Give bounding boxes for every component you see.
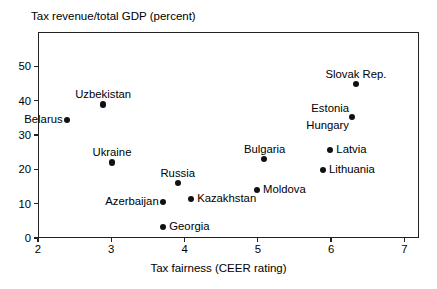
x-tick-label: 5: [247, 243, 269, 255]
y-tick-label: 30: [9, 129, 31, 141]
x-tick-mark: [404, 238, 405, 242]
point-label: Slovak Rep.: [325, 68, 386, 80]
y-tick-label: 50: [9, 60, 31, 72]
data-point: [160, 224, 166, 230]
data-point: [320, 167, 326, 173]
point-label: Belarus: [24, 113, 62, 125]
data-point: [109, 159, 115, 165]
point-label: Kazakhstan: [197, 192, 256, 204]
data-point: [349, 114, 355, 120]
data-point: [261, 156, 267, 162]
point-label: Hungary: [306, 119, 349, 131]
x-tick-mark: [257, 238, 258, 242]
x-tick-mark: [111, 238, 112, 242]
point-label: Uzbekistan: [75, 88, 131, 100]
point-label: Bulgaria: [244, 143, 285, 155]
data-point: [64, 117, 70, 123]
y-tick-label: 10: [9, 198, 31, 210]
point-label: Azerbaijan: [105, 195, 158, 207]
x-tick-mark: [37, 238, 38, 242]
point-label: Russia: [160, 167, 195, 179]
point-label: Latvia: [336, 143, 366, 155]
chart-title: Tax revenue/total GDP (percent): [31, 10, 196, 23]
x-tick-label: 3: [100, 243, 122, 255]
x-tick-mark: [184, 238, 185, 242]
point-label: Ukraine: [93, 146, 132, 158]
x-tick-label: 6: [320, 243, 342, 255]
x-tick-label: 4: [174, 243, 196, 255]
data-point: [353, 81, 359, 87]
data-point: [188, 196, 194, 202]
point-label: Georgia: [169, 220, 209, 232]
point-label: Estonia: [311, 102, 349, 114]
point-label: Lithuania: [329, 163, 375, 175]
x-tick-mark: [330, 238, 331, 242]
x-tick-label: 2: [27, 243, 49, 255]
data-point: [160, 199, 166, 205]
x-axis-label: Tax fairness (CEER rating): [0, 262, 437, 275]
point-label: Moldova: [263, 183, 306, 195]
scatter-chart-figure: Tax revenue/total GDP (percent) 01020304…: [0, 0, 437, 289]
data-point: [175, 180, 181, 186]
plot-area: [38, 32, 419, 238]
data-point: [100, 101, 106, 107]
data-point: [327, 147, 333, 153]
x-tick-label: 7: [393, 243, 415, 255]
y-tick-label: 40: [9, 95, 31, 107]
y-tick-label: 20: [9, 163, 31, 175]
